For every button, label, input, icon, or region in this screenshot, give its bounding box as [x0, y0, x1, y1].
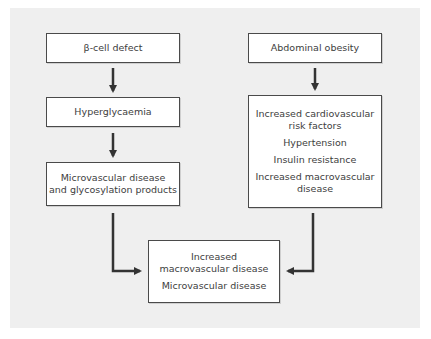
arrow-micro-to-outcome	[113, 213, 140, 271]
node-label: β-cell defect	[84, 42, 143, 54]
node-microvascular-disease: Microvascular disease and glycosylation …	[46, 162, 180, 206]
node-label-line-1: Microvascular disease	[61, 172, 166, 184]
node-outcome: Increased macrovascular disease Microvas…	[148, 240, 280, 303]
outcome-macro-2: macrovascular disease	[160, 263, 269, 275]
item-macrovascular-1: Increased macrovascular	[255, 171, 374, 183]
outcome-micro: Microvascular disease	[162, 280, 267, 292]
node-label-line-2: and glycosylation products	[49, 184, 177, 196]
node-cardiovascular-risk: Increased cardiovascular risk factors Hy…	[248, 95, 382, 208]
node-label: Hyperglycaemia	[74, 106, 151, 118]
outcome-macro-1: Increased	[191, 251, 237, 263]
item-increased-cv-risk-1: Increased cardiovascular	[256, 108, 375, 120]
arrow-risk-to-outcome	[288, 213, 313, 271]
item-insulin-resistance: Insulin resistance	[274, 154, 357, 166]
node-beta-cell-defect: β-cell defect	[46, 33, 180, 63]
node-label: Abdominal obesity	[271, 42, 359, 54]
node-hyperglycaemia: Hyperglycaemia	[46, 97, 180, 127]
item-increased-cv-risk-2: risk factors	[289, 120, 342, 132]
item-hypertension: Hypertension	[283, 137, 347, 149]
node-abdominal-obesity: Abdominal obesity	[248, 33, 382, 63]
item-macrovascular-2: disease	[297, 183, 333, 195]
